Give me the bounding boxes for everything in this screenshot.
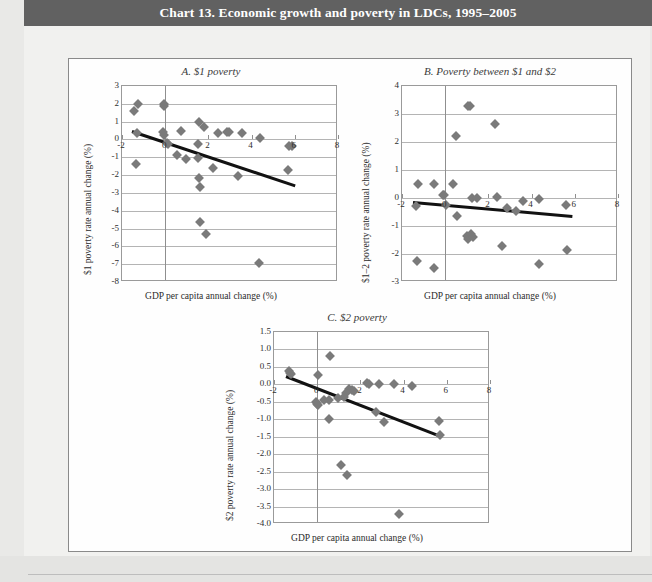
data-point-marker (199, 122, 209, 132)
gridline-horizontal (274, 437, 488, 438)
y-axis-tick-label: 3 (375, 108, 399, 118)
x-axis-tick-label: -2 (269, 385, 277, 395)
y-axis-tick-label: 0.0 (247, 378, 271, 388)
y-axis-tick-label: 0 (95, 133, 119, 143)
data-point-marker (195, 182, 205, 192)
gridline-horizontal (122, 122, 336, 123)
page-title: Chart 13. Economic growth and poverty in… (159, 5, 516, 21)
x-axis-tick-label: 8 (487, 385, 492, 395)
gridline-horizontal (122, 246, 336, 247)
y-axis-tick-label: -5 (95, 223, 119, 233)
panel-a-title: A. $1 poverty (75, 65, 347, 77)
x-axis-tick-label: 4 (248, 140, 253, 150)
y-axis-tick-label: -1 (95, 151, 119, 161)
y-axis-tick-label: -2.0 (247, 448, 271, 458)
gridline-horizontal (402, 170, 616, 171)
data-point-marker (492, 192, 502, 202)
y-axis-tick-label: 0 (375, 192, 399, 202)
data-point-marker (512, 206, 522, 216)
y-axis-tick-label: 2 (375, 136, 399, 146)
x-axis-tick-label: 6 (292, 140, 297, 150)
data-point-marker (407, 381, 417, 391)
x-axis-tick-mark (575, 194, 576, 198)
gridline-horizontal (274, 507, 488, 508)
y-axis-tick-label: 2 (95, 98, 119, 108)
panel-b-xaxis-title: GDP per capita annual change (%) (353, 291, 627, 301)
y-axis-line (445, 86, 446, 280)
data-point-marker (237, 128, 247, 138)
data-point-marker (233, 171, 243, 181)
x-axis-tick-mark (490, 380, 491, 384)
data-point-marker (561, 200, 571, 210)
data-point-marker (181, 154, 191, 164)
gridline-horizontal (122, 175, 336, 176)
x-axis-tick-label: -2 (117, 140, 125, 150)
y-axis-tick-label: 1.5 (247, 326, 271, 336)
panel-a-dollar1-poverty: A. $1 poverty GDP per capita annual chan… (75, 65, 347, 305)
panel-c-yaxis-title: $2 poverty rate annual change (%) (225, 390, 235, 521)
data-point-marker (389, 379, 399, 389)
chart-sheet: A. $1 poverty GDP per capita annual chan… (24, 26, 650, 556)
data-point-marker (435, 430, 445, 440)
x-axis-tick-label: 2 (485, 199, 490, 209)
y-axis-tick-label: -1.0 (247, 413, 271, 423)
x-axis-tick-mark (488, 194, 489, 198)
data-point-marker (132, 128, 142, 138)
x-axis-tick-label: 0 (162, 140, 167, 150)
data-point-marker (336, 460, 346, 470)
gridline-horizontal (402, 254, 616, 255)
panel-a-xaxis-title: GDP per capita annual change (%) (75, 291, 347, 301)
gridline-horizontal (274, 349, 488, 350)
x-axis-tick-label: 6 (444, 385, 449, 395)
x-axis-tick-label: 4 (528, 199, 533, 209)
data-point-marker (534, 259, 544, 269)
gridline-horizontal (274, 367, 488, 368)
trendline (131, 130, 295, 187)
data-point-marker (324, 414, 334, 424)
x-axis-tick-label: 0 (442, 199, 447, 209)
x-axis-tick-mark (295, 135, 296, 139)
x-axis-tick-mark (618, 194, 619, 198)
x-axis-tick-mark (404, 380, 405, 384)
chart-frame: A. $1 poverty GDP per capita annual chan… (68, 58, 632, 552)
panel-b-title: B. Poverty between $1 and $2 (353, 65, 627, 77)
panel-c-dollar2-poverty: C. $2 poverty GDP per capita annual chan… (215, 311, 499, 549)
y-axis-tick-label: 1 (95, 116, 119, 126)
panel-b-poverty-between-1-and-2: B. Poverty between $1 and $2 GDP per cap… (353, 65, 627, 305)
panel-a-yaxis-title: $1 poverty rate annual change (%) (83, 144, 93, 275)
data-point-marker (325, 351, 335, 361)
y-axis-tick-label: -1.5 (247, 431, 271, 441)
y-axis-tick-label: -1 (375, 220, 399, 230)
y-axis-tick-label: -3 (375, 276, 399, 286)
panel-c-plot-area (273, 331, 489, 523)
data-point-marker (490, 119, 500, 129)
x-axis-tick-mark (447, 380, 448, 384)
y-axis-tick-label: -8 (95, 276, 119, 286)
x-axis-tick-mark (274, 380, 275, 384)
y-axis-tick-label: 1 (375, 164, 399, 174)
data-point-marker (434, 416, 444, 426)
x-axis-tick-label: -2 (397, 199, 405, 209)
data-point-marker (429, 263, 439, 273)
page-bottom-rule (28, 574, 652, 575)
x-axis-tick-label: 4 (400, 385, 405, 395)
gridline-horizontal (122, 229, 336, 230)
gridline-horizontal (122, 193, 336, 194)
gridline-horizontal (402, 142, 616, 143)
gridline-horizontal (274, 472, 488, 473)
x-axis-tick-mark (532, 194, 533, 198)
y-axis-tick-label: -6 (95, 240, 119, 250)
y-axis-tick-label: -2 (95, 169, 119, 179)
chart-title-bar: Chart 13. Economic growth and poverty in… (24, 0, 652, 26)
data-point-marker (176, 126, 186, 136)
x-axis-tick-mark (252, 135, 253, 139)
y-axis-tick-label: -4 (95, 205, 119, 215)
x-axis-tick-label: 8 (615, 199, 620, 209)
y-axis-tick-label: -2 (375, 248, 399, 258)
gridline-horizontal (402, 114, 616, 115)
panel-c-xaxis-title: GDP per capita annual change (%) (215, 533, 499, 543)
y-axis-tick-label: -2.5 (247, 466, 271, 476)
gridline-horizontal (122, 104, 336, 105)
x-axis-tick-label: 2 (205, 140, 210, 150)
x-axis-tick-label: 6 (572, 199, 577, 209)
